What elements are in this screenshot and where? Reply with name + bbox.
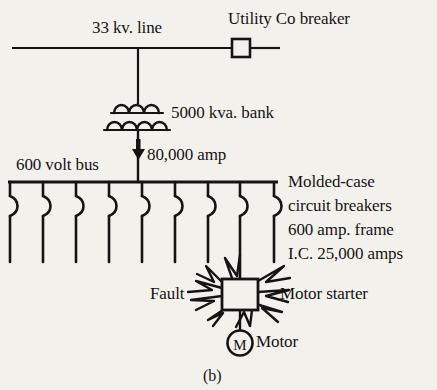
molded-case-circuit-breaker-icon-faulted-feeder[interactable] — [240, 182, 248, 279]
utility-breaker-label: Utility Co breaker — [228, 9, 350, 28]
motor-label: Motor — [256, 332, 298, 351]
molded-case-circuit-breaker-icon[interactable] — [109, 182, 117, 262]
molded-case-circuit-breaker-icon[interactable] — [175, 182, 183, 262]
motor-starter-label: Motor starter — [280, 284, 368, 303]
molded-case-circuit-breaker-icon[interactable] — [274, 182, 282, 262]
motor-starter-square-icon[interactable] — [222, 279, 258, 310]
molded-case-circuit-breaker-icon[interactable] — [10, 182, 18, 262]
hv-line-label: 33 kv. line — [92, 18, 162, 37]
molded-case-circuit-breaker-icon[interactable] — [142, 182, 150, 262]
molded-case-circuit-breaker-icon[interactable] — [208, 182, 216, 262]
fault-current-label: 80,000 amp — [147, 145, 226, 164]
fault-label: Fault — [150, 284, 184, 303]
bus-label: 600 volt bus — [16, 155, 99, 174]
molded-case-circuit-breaker-icon[interactable] — [76, 182, 84, 262]
molded-case-label-line-1: Molded-case — [288, 172, 375, 191]
molded-case-circuit-breaker-icon[interactable] — [43, 182, 51, 262]
transformer-secondary-winding — [107, 122, 167, 130]
breaker-drop-group — [10, 182, 282, 279]
figure-caption: (b) — [203, 366, 221, 385]
molded-case-label-line-2: circuit breakers — [288, 196, 392, 215]
transformer-rating-label: 5000 kva. bank — [171, 103, 274, 122]
motor-symbol-letter: M — [233, 337, 246, 353]
single-line-diagram: M — [0, 0, 437, 390]
transformer-primary-winding — [114, 105, 159, 113]
figure-container: M 33 kv. line Utility Co breaker 5000 kv… — [0, 0, 437, 390]
down-arrow-icon — [132, 139, 145, 160]
two-winding-transformer-icon — [104, 105, 170, 130]
molded-case-label-line-3: 600 amp. frame — [288, 220, 394, 239]
molded-case-label-line-4: I.C. 25,000 amps — [288, 244, 403, 263]
utility-breaker-icon[interactable] — [232, 39, 250, 57]
